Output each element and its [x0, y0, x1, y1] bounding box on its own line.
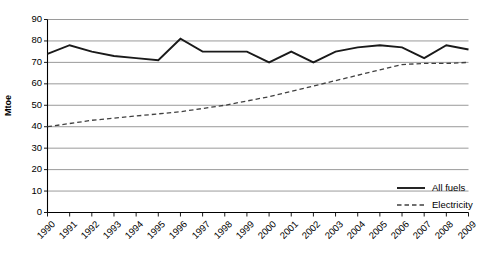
ytick-label-10: 10: [16, 186, 42, 196]
ytick-label-70: 70: [16, 57, 42, 67]
legend-label-all-fuels: All fuels: [432, 182, 465, 193]
line-chart: Mtoe 0102030405060708090 199019911992199…: [0, 0, 481, 270]
ytick-label-50: 50: [16, 100, 42, 110]
ytick-label-40: 40: [16, 121, 42, 131]
series-line-electricity: [48, 62, 469, 126]
ytick-label-60: 60: [16, 78, 42, 88]
data-series: [48, 39, 469, 127]
series-line-all-fuels: [48, 39, 469, 63]
y-axis-title: Mtoe: [3, 102, 13, 116]
ytick-label-30: 30: [16, 143, 42, 153]
ytick-label-20: 20: [16, 164, 42, 174]
ytick-label-80: 80: [16, 35, 42, 45]
ytick-label-0: 0: [16, 207, 42, 217]
legend-label-electricity: Electricity: [432, 199, 473, 210]
legend-marks: [397, 188, 425, 205]
ytick-label-90: 90: [16, 14, 42, 24]
